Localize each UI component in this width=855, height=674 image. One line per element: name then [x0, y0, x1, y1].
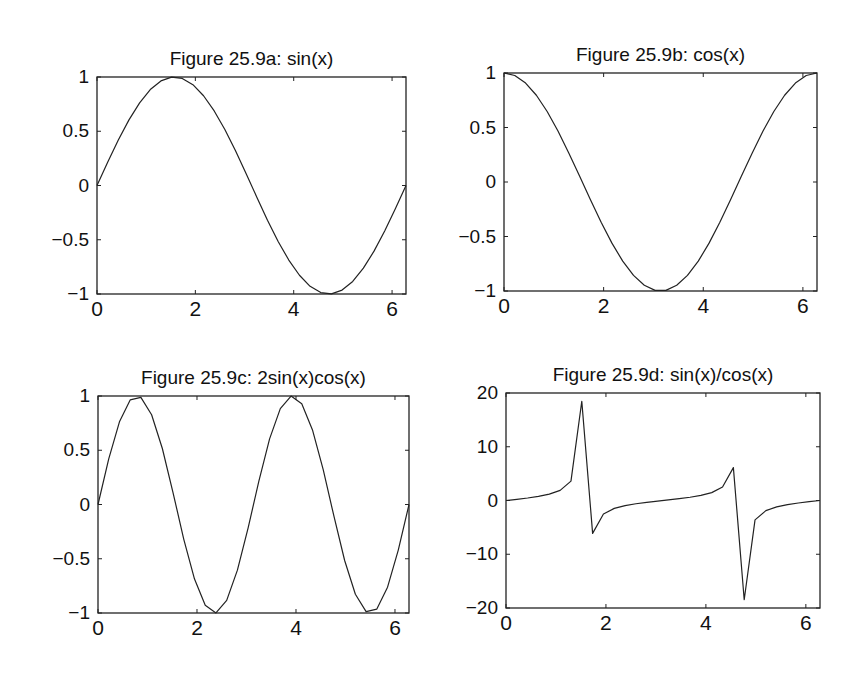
y-tick-label: 0.5: [29, 120, 89, 142]
x-tick-label: 0: [500, 611, 512, 635]
x-tick-label: 4: [290, 616, 302, 640]
x-tick-label: 2: [598, 294, 610, 318]
x-tick-label: 4: [697, 294, 709, 318]
y-tick-label: 0: [29, 175, 89, 197]
plot-area: [98, 396, 409, 613]
subplot-sin: Figure 25.9a: sin(x) 0246−1−0.500.51: [97, 77, 406, 294]
y-tick-label: −0.5: [29, 229, 89, 251]
subplot-title: Figure 25.9a: sin(x): [170, 48, 334, 70]
x-tick-label: 0: [91, 297, 103, 321]
y-tick-label: −20: [438, 597, 498, 619]
x-tick-label: 6: [797, 294, 809, 318]
x-tick-label: 4: [288, 297, 300, 321]
x-tick-label: 6: [800, 611, 812, 635]
axes-box: [504, 73, 817, 291]
y-tick-label: 1: [436, 62, 496, 84]
x-tick-label: 0: [498, 294, 510, 318]
y-tick-label: −0.5: [30, 548, 90, 570]
plot-area: [504, 73, 817, 291]
subplot-tan: Figure 25.9d: sin(x)/cos(x) 0246−20−1001…: [506, 393, 820, 608]
y-tick-label: 0.5: [30, 439, 90, 461]
y-tick-label: 20: [438, 382, 498, 404]
y-tick-label: 0.5: [436, 117, 496, 139]
data-line: [504, 73, 817, 290]
subplot-title: Figure 25.9d: sin(x)/cos(x): [553, 364, 774, 386]
x-tick-label: 6: [386, 297, 398, 321]
subplot-title: Figure 25.9b: cos(x): [576, 44, 745, 66]
y-tick-label: 10: [438, 436, 498, 458]
data-line: [506, 401, 820, 599]
x-tick-label: 0: [92, 616, 104, 640]
x-tick-label: 4: [700, 611, 712, 635]
y-tick-label: 0: [438, 490, 498, 512]
y-tick-label: 1: [30, 385, 90, 407]
subplot-title: Figure 25.9c: 2sin(x)cos(x): [141, 367, 366, 389]
data-line: [98, 396, 409, 613]
x-tick-label: 2: [600, 611, 612, 635]
x-tick-label: 2: [191, 616, 203, 640]
subplot-2sincos: Figure 25.9c: 2sin(x)cos(x) 0246−1−0.500…: [98, 396, 409, 613]
y-tick-label: −10: [438, 543, 498, 565]
y-tick-label: −1: [436, 280, 496, 302]
x-tick-label: 2: [190, 297, 202, 321]
y-tick-label: −1: [30, 602, 90, 624]
y-tick-label: 1: [29, 66, 89, 88]
y-tick-label: 0: [30, 494, 90, 516]
plot-area: [97, 77, 406, 294]
plot-area: [506, 393, 820, 608]
y-tick-label: 0: [436, 171, 496, 193]
x-tick-label: 6: [389, 616, 401, 640]
subplot-cos: Figure 25.9b: cos(x) 0246−1−0.500.51: [504, 73, 817, 291]
y-tick-label: −1: [29, 283, 89, 305]
data-line: [97, 77, 406, 294]
y-tick-label: −0.5: [436, 226, 496, 248]
